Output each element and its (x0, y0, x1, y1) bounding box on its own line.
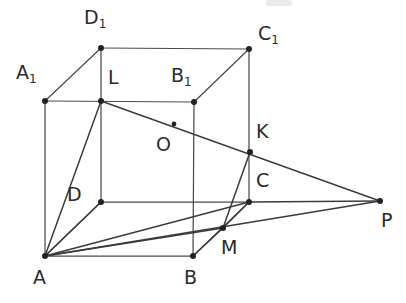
segments-group (45, 48, 380, 256)
vertex-dot-M (220, 225, 226, 231)
vertex-label-A1: A1 (16, 63, 37, 82)
edge-A1-B1 (45, 101, 194, 102)
vertex-dot-A (42, 253, 48, 259)
label-base-B1: B (171, 64, 184, 86)
vertex-dot-K (247, 149, 253, 155)
label-base-P: P (381, 209, 392, 231)
vertex-dot-D (98, 199, 104, 205)
line-K-M (223, 152, 250, 228)
edge-C1-B1 (194, 49, 249, 102)
vertex-label-A: A (33, 268, 46, 287)
vertex-dots-group (42, 45, 383, 259)
vertex-label-O: O (156, 135, 171, 154)
label-base-A: A (33, 266, 46, 288)
label-subscript-A1: 1 (29, 72, 37, 86)
vertex-dot-B1 (191, 99, 197, 105)
line-L-P (101, 101, 380, 201)
line-C-P (249, 201, 380, 202)
vertex-dot-C1 (246, 46, 252, 52)
label-subscript-D1: 1 (99, 17, 107, 31)
vertex-label-B1: B1 (171, 66, 192, 85)
label-base-M: M (221, 236, 237, 258)
vertex-label-L: L (108, 68, 119, 87)
vertex-dot-P (377, 198, 383, 204)
label-base-A1: A (16, 61, 29, 83)
label-base-B: B (184, 266, 197, 288)
label-base-D1: D (84, 6, 99, 28)
geometry-figure: D1C1A1B1LOKDCPMAB (0, 0, 406, 303)
vertex-dot-O (172, 122, 177, 127)
figure-svg (0, 0, 406, 303)
label-base-C: C (256, 169, 269, 191)
label-subscript-B1: 1 (184, 75, 192, 89)
vertex-dot-C (246, 199, 252, 205)
vertex-label-C1: C1 (258, 24, 279, 43)
label-base-K: K (256, 120, 268, 142)
label-base-O: O (156, 133, 171, 155)
label-subscript-C1: 1 (271, 33, 279, 47)
vertex-label-C: C (256, 171, 269, 190)
line-A-L (45, 101, 101, 256)
vertex-label-D: D (67, 185, 82, 204)
label-base-D: D (67, 183, 82, 205)
edge-D1-A1 (45, 48, 101, 101)
vertex-label-P: P (381, 211, 392, 230)
vertex-label-B: B (184, 268, 197, 287)
vertex-dot-B (190, 253, 196, 259)
vertex-label-M: M (221, 238, 237, 257)
vertex-dot-A1 (42, 98, 48, 104)
vertex-label-K: K (256, 122, 268, 141)
label-base-L: L (108, 66, 119, 88)
vertex-dot-D1 (98, 45, 104, 51)
scan-smudge (266, 0, 292, 6)
edge-D1-C1 (101, 48, 249, 49)
vertex-dot-L (98, 98, 104, 104)
vertex-label-D1: D1 (84, 8, 106, 27)
label-base-C1: C (258, 22, 271, 44)
